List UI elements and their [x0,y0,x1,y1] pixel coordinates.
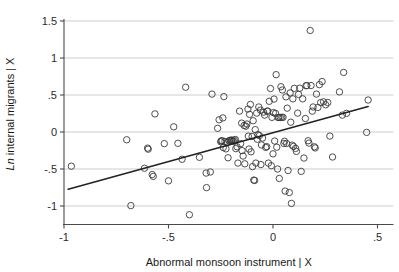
data-point [216,117,222,123]
data-points-group [68,27,371,218]
data-point [307,27,313,33]
data-point [329,154,335,160]
data-point [290,96,296,102]
data-point [294,110,300,116]
data-point [273,71,279,77]
y-tick-label: 1.5 [42,15,57,27]
data-point [282,188,288,194]
y-tick-label: -1 [47,200,57,212]
data-point [285,167,291,173]
x-tick-label: -.5 [162,231,175,243]
data-point [327,133,333,139]
data-point [225,155,231,161]
y-axis-title: Ln internal migrants | X [4,57,16,171]
y-tick-label: -.5 [44,163,57,175]
y-tick-label: 1 [51,52,57,64]
data-point [221,93,227,99]
axes-group [63,19,394,225]
data-point [340,69,346,75]
data-point [214,125,220,131]
data-point [288,119,294,125]
data-point [365,97,371,103]
chart-canvas: -1-.50.511.5 -1-.50.5 Abnormal monsoon i… [0,0,399,272]
x-axis-title: Abnormal monsoon instrument | X [146,256,313,268]
data-point [165,178,171,184]
scatter-plot-figure: -1-.50.511.5 -1-.50.5 Abnormal monsoon i… [0,0,399,272]
data-point [68,163,74,169]
data-point [301,155,307,161]
data-point [302,115,308,121]
x-tick-group: -1-.50.5 [59,225,382,243]
regression-fit-line [68,106,368,189]
data-point [209,91,215,97]
data-point [286,189,292,195]
data-point [274,144,280,150]
x-tick-label: .5 [373,231,382,243]
data-point [175,140,181,146]
data-point [235,160,241,166]
data-point [203,170,209,176]
data-point [196,154,202,160]
x-tick-label: -1 [59,231,69,243]
data-point [236,108,242,114]
data-point [267,85,273,91]
y-tick-label: .5 [48,89,57,101]
data-point [271,138,277,144]
data-point [150,173,156,179]
data-point [182,84,188,90]
data-point [250,118,256,124]
data-point [124,137,130,143]
data-point [284,105,290,111]
data-point [171,124,177,130]
data-point [363,129,369,135]
data-point [315,104,321,110]
data-point [203,184,209,190]
y-tick-label: 0 [51,126,57,138]
data-point [336,89,342,95]
data-point [242,161,248,167]
x-tick-label: 0 [270,231,276,243]
y-tick-group: -1-.50.511.5 [42,15,64,212]
data-point [161,140,167,146]
y-axis-title-italic-prefix: Ln [4,158,16,170]
data-point [220,115,226,121]
y-axis-title-rest: internal migrants | X [4,57,16,158]
data-point [299,96,305,102]
data-point [283,94,289,100]
data-point [270,151,276,157]
data-point [207,169,213,175]
data-point [152,111,158,117]
data-point [276,175,282,181]
data-point [128,202,134,208]
data-point [313,91,319,97]
data-point [186,212,192,218]
